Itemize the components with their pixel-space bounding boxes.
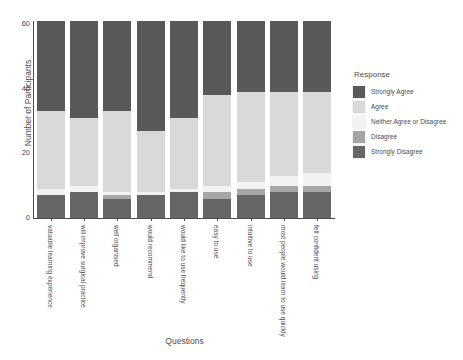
legend-swatch [353,116,365,128]
x-tick-mark [151,218,152,221]
bar-stack [70,21,98,218]
y-tick-label: 0 [10,214,30,222]
legend-key [352,85,366,99]
legend-swatch [353,146,365,158]
legend-key [352,115,366,129]
x-tick-mark [251,218,252,221]
x-tick-label: valuable learning experience [47,225,54,308]
bar-segment [303,186,331,192]
bar-segment [137,131,165,192]
bar-segment [103,195,131,198]
bar-stack [37,21,65,218]
legend-item: Neither Agree or Disagree [352,114,463,129]
x-tick-label: easy to use [213,225,220,258]
bar-segment [70,21,98,118]
bar-stack [137,21,165,218]
bar-segment [103,111,131,192]
bar-segment [170,192,198,218]
bar-segment [237,189,265,195]
legend-label: Neither Agree or Disagree [371,118,446,125]
bar-segment [237,21,265,92]
bar-segment [303,173,331,186]
x-tick-label: would recommend [147,225,154,278]
x-tick-mark [84,218,85,221]
legend-item: Agree [352,99,463,114]
y-axis-ticks: 0204060 [8,0,30,360]
chart-root: Number of Participants 0204060 valuable … [0,0,463,360]
bar-segment [137,192,165,195]
bar-segment [303,192,331,218]
legend-item: Strongly Disagree [352,144,463,159]
legend-label: Agree [371,103,388,110]
bar-segment [103,192,131,195]
bar-segment [203,199,231,218]
bar-segment [303,21,331,92]
y-tick-label: 40 [10,85,30,93]
x-tick-label: well organised [113,225,120,267]
x-tick-mark [117,218,118,221]
legend-swatch [353,101,365,113]
legend-title: Response [354,70,463,79]
y-tick-label: 60 [10,20,30,28]
bar-stack [303,21,331,218]
legend: Response Strongly AgreeAgreeNeither Agre… [352,70,463,159]
bar-stack [237,21,265,218]
x-tick-mark [317,218,318,221]
legend-swatch [353,131,365,143]
bar-segment [237,92,265,182]
x-tick-label: intuitive to use [247,225,254,267]
y-tick-label: 20 [10,149,30,157]
bar-segment [103,199,131,218]
bar-segment [137,21,165,131]
legend-swatch [353,86,365,98]
legend-key [352,145,366,159]
plot-panel [34,21,334,218]
bar-segment [203,21,231,95]
bar-segment [37,189,65,195]
bar-segment [70,118,98,186]
bar-stack [270,21,298,218]
x-tick-mark [184,218,185,221]
x-tick-label: felt confident using [313,225,320,279]
bar-segment [170,189,198,192]
x-tick-label: will improve surgical practice [80,225,87,308]
bar-segment [237,182,265,188]
legend-key [352,130,366,144]
bar-stack [203,21,231,218]
legend-label: Disagree [371,133,397,140]
bar-segment [270,92,298,176]
bar-segment [270,186,298,192]
bar-segment [270,192,298,218]
bar-stack [103,21,131,218]
x-tick-mark [51,218,52,221]
legend-key [352,100,366,114]
legend-label: Strongly Agree [371,88,414,95]
bar-segment [37,195,65,218]
bar-segment [203,192,231,198]
bar-segment [237,195,265,218]
bar-segment [103,21,131,111]
legend-item: Disagree [352,129,463,144]
x-tick-label: most people would learn to use quickly [280,225,287,337]
bar-segment [70,186,98,192]
bar-segment [37,111,65,189]
bar-segment [170,21,198,118]
bar-segment [303,92,331,173]
bar-segment [270,21,298,92]
bar-segment [137,195,165,218]
bar-segment [70,192,98,218]
bar-segment [170,118,198,189]
legend-label: Strongly Disagree [371,148,423,155]
bar-stack [170,21,198,218]
x-tick-label: would like to use frequently [180,225,187,303]
x-tick-mark [284,218,285,221]
bar-segment [203,186,231,192]
bar-segment [270,176,298,186]
x-axis-title: Questions [34,336,335,346]
legend-items: Strongly AgreeAgreeNeither Agree or Disa… [352,84,463,159]
bar-segment [37,21,65,111]
bar-segment [203,95,231,185]
legend-item: Strongly Agree [352,84,463,99]
x-tick-mark [217,218,218,221]
